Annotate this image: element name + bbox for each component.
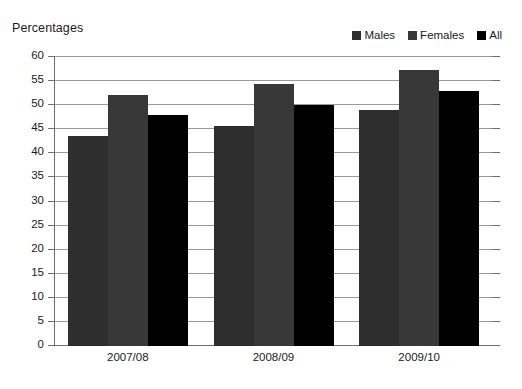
- y-axis-tick-right: [492, 249, 500, 250]
- bar-females-2007-08: [108, 95, 148, 346]
- bar-males-2009-10: [359, 110, 399, 346]
- legend-swatch-icon: [352, 31, 361, 40]
- legend-label: Females: [420, 30, 464, 42]
- y-axis-tick-right: [492, 104, 500, 105]
- legend-label: All: [489, 30, 502, 42]
- y-axis-tick-right: [492, 321, 500, 322]
- y-axis-tick-label: 15: [2, 267, 44, 279]
- y-axis-tick-right: [492, 273, 500, 274]
- y-axis-tick-label: 0: [2, 339, 44, 351]
- y-axis-tick-right: [492, 152, 500, 153]
- y-axis-tick: [48, 321, 55, 322]
- y-axis-tick: [48, 152, 55, 153]
- bar-all-2007-08: [148, 115, 188, 346]
- bar-chart: Percentages MalesFemalesAll 051015202530…: [0, 0, 522, 389]
- legend-swatch-icon: [477, 31, 486, 40]
- y-axis-tick-right: [492, 80, 500, 81]
- y-axis-tick-right: [492, 56, 500, 57]
- y-axis-tick-label: 40: [2, 146, 44, 158]
- y-axis-tick: [48, 104, 55, 105]
- bar-females-2009-10: [399, 70, 439, 346]
- y-axis-tick-right: [492, 201, 500, 202]
- y-axis-tick: [48, 176, 55, 177]
- y-axis-tick-right: [492, 297, 500, 298]
- y-axis-tick: [48, 249, 55, 250]
- y-axis-tick-label: 55: [2, 74, 44, 86]
- y-axis-tick: [48, 201, 55, 202]
- y-axis-tick-label: 10: [2, 291, 44, 303]
- y-axis-tick: [48, 128, 55, 129]
- chart-legend: MalesFemalesAll: [352, 30, 502, 42]
- y-axis-tick-right: [492, 176, 500, 177]
- y-axis-tick: [48, 345, 55, 346]
- x-axis-labels: 2007/082008/092009/10: [55, 352, 492, 372]
- y-axis-tick-label: 5: [2, 315, 44, 327]
- y-axis-tick-label: 25: [2, 219, 44, 231]
- bar-males-2007-08: [68, 136, 108, 346]
- legend-label: Males: [364, 30, 395, 42]
- x-axis-tick-label: 2009/10: [346, 352, 492, 364]
- y-axis-labels: 051015202530354045505560: [0, 0, 44, 389]
- y-axis-tick-right: [492, 225, 500, 226]
- y-axis-tick: [48, 56, 55, 57]
- bar-females-2008-09: [254, 84, 294, 346]
- y-axis-tick: [48, 273, 55, 274]
- bar-all-2009-10: [439, 91, 479, 346]
- bar-all-2008-09: [294, 105, 334, 346]
- legend-item-males[interactable]: Males: [352, 30, 395, 42]
- y-axis-tick-label: 45: [2, 122, 44, 134]
- y-axis-tick-label: 35: [2, 170, 44, 182]
- y-axis-tick-label: 60: [2, 50, 44, 62]
- legend-item-all[interactable]: All: [477, 30, 502, 42]
- y-axis-tick-right: [492, 345, 500, 346]
- x-axis-tick-label: 2007/08: [55, 352, 201, 364]
- y-axis-tick-label: 50: [2, 98, 44, 110]
- y-axis-tick-label: 30: [2, 195, 44, 207]
- y-axis-tick-label: 20: [2, 243, 44, 255]
- y-axis-tick-right: [492, 128, 500, 129]
- bar-males-2008-09: [214, 126, 254, 346]
- y-axis-tick: [48, 297, 55, 298]
- legend-swatch-icon: [408, 31, 417, 40]
- x-axis-tick-label: 2008/09: [201, 352, 347, 364]
- y-axis-tick: [48, 80, 55, 81]
- bars-layer: [55, 56, 492, 346]
- legend-item-females[interactable]: Females: [408, 30, 464, 42]
- y-axis-tick: [48, 225, 55, 226]
